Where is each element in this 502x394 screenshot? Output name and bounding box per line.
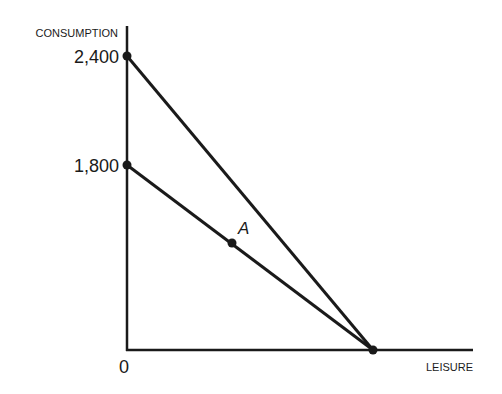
point-x-intercept bbox=[369, 346, 378, 355]
budget-line-high bbox=[127, 56, 373, 350]
y-tick-label-high: 2,400 bbox=[74, 47, 119, 67]
point-y-intercept-low bbox=[123, 161, 132, 170]
y-axis-title: CONSUMPTION bbox=[36, 27, 119, 39]
origin-label: 0 bbox=[119, 357, 129, 377]
budget-line-low bbox=[127, 165, 373, 350]
y-tick-label-low: 1,800 bbox=[74, 156, 119, 176]
point-y-intercept-high bbox=[123, 52, 132, 61]
point-a bbox=[228, 239, 237, 248]
x-axis-title: LEISURE bbox=[426, 361, 473, 373]
point-a-label: A bbox=[237, 219, 249, 238]
chart-canvas: CONSUMPTION 2,400 1,800 A 0 LEISURE bbox=[0, 0, 502, 394]
